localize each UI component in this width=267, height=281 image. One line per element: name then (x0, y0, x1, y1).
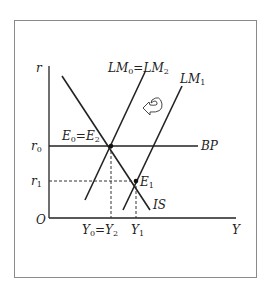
lm0-lm2-label: LM0=LM2 (107, 61, 169, 76)
is-label: IS (152, 198, 166, 212)
y1-label: Y1 (131, 223, 144, 238)
x-axis-label: Y (232, 223, 241, 237)
r1-label: r1 (31, 174, 42, 189)
y0-y2-label: Y0=Y2 (82, 223, 118, 238)
e1-point (134, 179, 139, 184)
r0-label: r0 (31, 139, 42, 154)
lm1-curve (123, 86, 182, 210)
is-lm-bp-diagram: r Y O r0 r1 Y0=Y2 Y1 E0=E2 E1 IS BP LM0=… (0, 0, 267, 281)
e0-point (109, 144, 114, 149)
y-axis-label: r (36, 61, 43, 75)
shift-arrow-icon (143, 98, 162, 115)
origin-label: O (36, 213, 46, 227)
e1-label: E1 (139, 175, 154, 190)
lm1-label: LM1 (179, 72, 205, 87)
bp-label: BP (200, 139, 219, 153)
e0-e2-label: E0=E2 (61, 129, 100, 144)
